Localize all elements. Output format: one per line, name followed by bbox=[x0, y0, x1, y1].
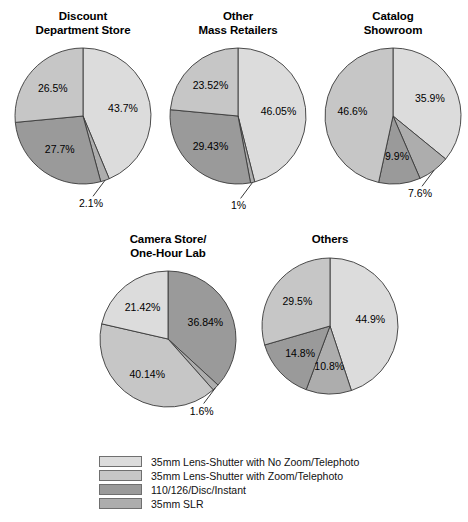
pie-chart-title: Discount Department Store bbox=[8, 10, 158, 37]
legend-item: 110/126/Disc/Instant bbox=[99, 483, 399, 497]
pie-slice-label: 9.9% bbox=[385, 150, 409, 162]
pie-slice-label: 10.8% bbox=[314, 360, 344, 372]
pie-chart-title: Catalog Showroom bbox=[318, 10, 468, 37]
pie-slice-label: 35.9% bbox=[415, 92, 445, 104]
pie-chart-figure: Discount Department Store 43.7%2.1%27.7%… bbox=[0, 0, 468, 522]
pie-slice-label: 40.14% bbox=[129, 368, 165, 380]
legend-swatch-icon bbox=[99, 456, 142, 467]
pie-svg-3: 36.84%1.6%40.14%21.42% bbox=[93, 263, 243, 438]
legend-item-label: 35mm SLR bbox=[151, 498, 204, 510]
pie-slice-label: 43.7% bbox=[108, 102, 138, 114]
pie-chart-title: Camera Store/ One-Hour Lab bbox=[93, 233, 243, 260]
pie-slice-label: 29.5% bbox=[283, 295, 313, 307]
pie-slice-label: 44.9% bbox=[355, 313, 385, 325]
pie-svg-0: 43.7%2.1%27.7%26.5% bbox=[8, 40, 158, 215]
pie-chart-title: Other Mass Retailers bbox=[163, 10, 313, 37]
pie-slice-label: 2.1% bbox=[79, 197, 103, 209]
pie-slice-label: 46.6% bbox=[338, 105, 368, 117]
pie-slice-label: 29.43% bbox=[193, 140, 229, 152]
legend-item-label: 35mm Lens-Shutter with No Zoom/Telephoto bbox=[151, 456, 359, 468]
legend-item: 35mm Lens-Shutter with Zoom/Telephoto bbox=[99, 469, 399, 483]
pie-slice-label: 27.7% bbox=[45, 143, 75, 155]
pie-chart-other-mass-retailers: Other Mass Retailers 46.05%1%29.43%23.52… bbox=[163, 10, 313, 215]
pie-canvas: 35.9%7.6%9.9%46.6% bbox=[318, 40, 468, 215]
pie-label-leader-line bbox=[241, 182, 253, 198]
pie-chart-catalog-showroom: Catalog Showroom 35.9%7.6%9.9%46.6% bbox=[318, 10, 468, 215]
legend-swatch-icon bbox=[99, 484, 142, 495]
pie-svg-2: 35.9%7.6%9.9%46.6% bbox=[318, 40, 468, 215]
pie-canvas: 36.84%1.6%40.14%21.42% bbox=[93, 263, 243, 438]
legend: 35mm Lens-Shutter with No Zoom/Telephoto… bbox=[99, 455, 399, 511]
pie-chart-title: Others bbox=[255, 233, 405, 247]
pie-slice-label: 46.05% bbox=[261, 105, 297, 117]
legend-item-label: 110/126/Disc/Instant bbox=[151, 484, 246, 496]
pie-slice-label: 36.84% bbox=[188, 316, 224, 328]
legend-item: 35mm Lens-Shutter with No Zoom/Telephoto bbox=[99, 455, 399, 469]
legend-item: 35mm SLR bbox=[99, 497, 399, 511]
pie-chart-discount-department-store: Discount Department Store 43.7%2.1%27.7%… bbox=[8, 10, 158, 215]
pie-slice-label: 26.5% bbox=[38, 82, 68, 94]
pie-chart-camera-store-one-hour-lab: Camera Store/ One-Hour Lab 36.84%1.6%40.… bbox=[93, 233, 243, 438]
pie-slice-label: 1% bbox=[231, 199, 246, 211]
pie-svg-1: 46.05%1%29.43%23.52% bbox=[163, 40, 313, 215]
pie-canvas: 43.7%2.1%27.7%26.5% bbox=[8, 40, 158, 215]
pie-slice-label: 14.8% bbox=[285, 347, 315, 359]
pie-chart-others: Others 44.9%10.8%14.8%29.5% bbox=[255, 233, 405, 425]
pie-canvas: 46.05%1%29.43%23.52% bbox=[163, 40, 313, 215]
pie-slice-label: 23.52% bbox=[193, 79, 229, 91]
pie-slice-label: 7.6% bbox=[408, 187, 432, 199]
legend-item-label: 35mm Lens-Shutter with Zoom/Telephoto bbox=[151, 470, 343, 482]
pie-slice-label: 21.42% bbox=[125, 301, 161, 313]
pie-slice-label: 1.6% bbox=[190, 405, 214, 417]
pie-canvas: 44.9%10.8%14.8%29.5% bbox=[255, 250, 405, 425]
legend-swatch-icon bbox=[99, 498, 142, 509]
legend-swatch-icon bbox=[99, 470, 142, 481]
pie-svg-4: 44.9%10.8%14.8%29.5% bbox=[255, 250, 405, 425]
